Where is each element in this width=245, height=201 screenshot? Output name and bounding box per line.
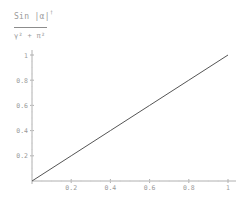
chart: Sin |α| † γ² + π² 0.20.40.60.810.20.40.6… [0,0,245,201]
x-tick-label: 1 [226,184,230,192]
data-line [32,55,228,181]
plot-area: 0.20.40.60.810.20.40.60.81 [0,0,245,201]
x-tick-label: 0.4 [105,184,117,192]
y-tick-label: 0.6 [16,102,28,110]
y-tick-label: 0.8 [16,77,28,85]
x-tick-label: 0.2 [65,184,77,192]
y-tick-label: 0.2 [16,152,28,160]
y-tick-label: 0.4 [16,127,28,135]
x-tick-label: 0.6 [144,184,156,192]
x-tick-label: 0.8 [183,184,195,192]
y-tick-label: 1 [24,52,28,60]
